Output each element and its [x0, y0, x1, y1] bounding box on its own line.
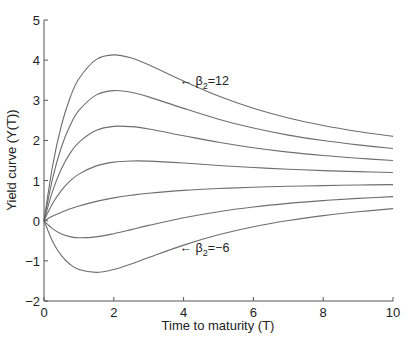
axes: −2−1012345 0246810 — [25, 13, 400, 320]
y-tick-label: 1 — [33, 174, 40, 189]
y-tick-label: 0 — [33, 214, 40, 229]
plot-area: −2−1012345 0246810 Time to maturity (T) … — [0, 0, 413, 349]
curve-beta2=6 — [44, 126, 393, 221]
y-tick-label: 4 — [33, 53, 40, 68]
y-tick-label: −1 — [25, 254, 40, 269]
y-tick-label: 3 — [33, 93, 40, 108]
y-axis-ticks: −2−1012345 — [25, 13, 48, 309]
y-tick-label: 5 — [33, 13, 40, 28]
y-axis-label: Yield curve (Y(T)) — [4, 109, 19, 210]
x-axis-label: Time to maturity (T) — [162, 318, 275, 333]
x-tick-label: 2 — [110, 305, 117, 320]
curve-beta2=-3 — [44, 197, 393, 238]
yield-curve-chart: −2−1012345 0246810 Time to maturity (T) … — [0, 0, 413, 349]
curve-beta2=0 — [44, 185, 393, 221]
y-tick-label: −2 — [25, 294, 40, 309]
y-tick-label: 2 — [33, 133, 40, 148]
x-axis-ticks: 0246810 — [40, 297, 400, 320]
annotation-1: ← β2=−6 — [180, 241, 230, 258]
x-tick-label: 0 — [40, 305, 47, 320]
annotation-0: ← β2=12 — [180, 74, 229, 91]
x-tick-label: 8 — [320, 305, 327, 320]
x-tick-label: 10 — [386, 305, 400, 320]
